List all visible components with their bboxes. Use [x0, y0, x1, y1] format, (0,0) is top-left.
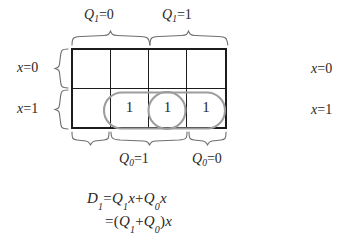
bottom-label-q0-equals-0: Q0=0 [192, 152, 222, 166]
eq1-x1: x [128, 190, 135, 206]
row-label-x-equals-1-value: 1 [31, 101, 38, 116]
row-label-x-equals-0: x=0 [17, 61, 38, 75]
bottom-label-q0-equals-0-var: Q [192, 151, 202, 166]
kmap-cell-r2c4[interactable]: 1 [187, 89, 225, 128]
kmap-grid: 1 1 1 [71, 48, 227, 129]
eq2-x: x [165, 213, 172, 229]
eq1-d-sub: 1 [98, 201, 103, 212]
top-label-q1-equals-0: Q1=0 [84, 8, 114, 22]
eq1-q1: Q [112, 190, 123, 206]
top-label-q1-equals-0-eq: = [99, 7, 107, 22]
bottom-label-q0-equals-0-sub: 0 [202, 158, 207, 168]
eq2-q1-sub: 1 [130, 224, 135, 235]
eq2-q0: Q [144, 213, 155, 229]
clipped-neighbor-x0-value: 0 [325, 61, 332, 76]
karnaugh-map-figure: Q1=0 Q1=1 x=0 x=1 1 1 1 [0, 0, 342, 238]
top-label-q1-equals-1: Q1=1 [162, 8, 192, 22]
equation-line-2: =(Q1+Q0)x [105, 213, 172, 232]
row-label-x-equals-1: x=1 [17, 102, 38, 116]
clipped-neighbor-row-label-x-equals-0: x=0 [311, 61, 332, 77]
clipped-neighbor-x1-value: 1 [325, 102, 332, 117]
bottom-brace-col1 [71, 131, 110, 146]
equation-line-1: D1=Q1x+Q0x [87, 190, 167, 209]
top-label-q1-equals-1-var: Q [162, 7, 172, 22]
kmap-cell-r2c2[interactable]: 1 [111, 89, 149, 128]
row-label-x-equals-0-value: 0 [31, 60, 38, 75]
eq1-plus: + [135, 190, 144, 206]
kmap-cell-r1c3[interactable] [149, 50, 187, 89]
kmap-cell-r2c3[interactable]: 1 [149, 89, 187, 128]
eq2-q1: Q [119, 213, 130, 229]
bottom-label-q0-equals-0-value: 0 [215, 151, 222, 166]
left-brace-row-x1 [54, 89, 70, 130]
kmap-cell-r2c1[interactable] [73, 89, 111, 128]
clipped-neighbor-x1-eq: = [317, 102, 325, 117]
eq2-plus: + [135, 213, 144, 229]
bottom-brace-q0-equals-1 [110, 131, 188, 146]
eq1-equals: = [103, 190, 112, 206]
bottom-label-q0-equals-0-eq: = [207, 151, 215, 166]
kmap-cell-r1c2[interactable] [111, 50, 149, 89]
top-label-q1-equals-1-value: 1 [185, 7, 192, 22]
eq2-equals: = [105, 213, 114, 229]
bottom-label-q0-equals-1-var: Q [119, 151, 129, 166]
bottom-label-q0-equals-1-value: 1 [142, 151, 149, 166]
top-label-q1-equals-0-var: Q [84, 7, 94, 22]
top-brace-left [71, 30, 151, 46]
bottom-label-q0-equals-1-sub: 0 [129, 158, 134, 168]
clipped-neighbor-x0-eq: = [317, 61, 325, 76]
top-label-q1-equals-1-sub: 1 [172, 14, 177, 24]
top-label-q1-equals-0-sub: 1 [94, 14, 99, 24]
row-label-x-equals-0-eq: = [23, 60, 31, 75]
bottom-brace-q0-equals-0 [188, 131, 227, 146]
kmap-cell-r1c4[interactable] [187, 50, 225, 89]
eq1-x2: x [160, 190, 167, 206]
eq2-q0-sub: 0 [155, 224, 160, 235]
eq1-q1-sub: 1 [123, 201, 128, 212]
top-label-q1-equals-0-value: 0 [107, 7, 114, 22]
bottom-label-q0-equals-1-eq: = [134, 151, 142, 166]
row-label-x-equals-1-eq: = [23, 101, 31, 116]
clipped-neighbor-row-label-x-equals-1: x=1 [311, 102, 332, 118]
bottom-label-q0-equals-1: Q0=1 [119, 152, 149, 166]
eq1-q0-sub: 0 [155, 201, 160, 212]
top-brace-right [149, 30, 229, 46]
kmap-cell-r1c1[interactable] [73, 50, 111, 89]
eq1-d: D [87, 190, 98, 206]
left-brace-row-x0 [54, 48, 70, 89]
top-label-q1-equals-1-eq: = [177, 7, 185, 22]
eq1-q0: Q [144, 190, 155, 206]
